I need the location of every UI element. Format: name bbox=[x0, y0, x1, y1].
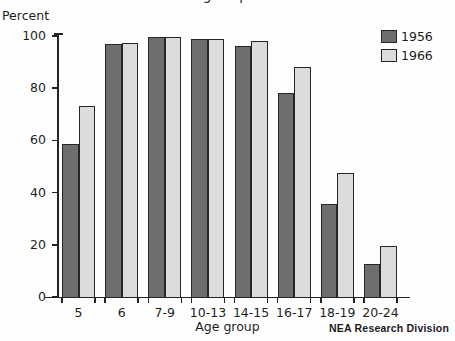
y-tick-label: 40 bbox=[0, 185, 46, 200]
x-tick bbox=[234, 297, 235, 303]
x-tick bbox=[94, 297, 95, 303]
x-tick bbox=[310, 297, 311, 303]
x-tick bbox=[363, 297, 364, 303]
y-tick-label: 60 bbox=[0, 132, 46, 147]
y-tick-label: 20 bbox=[0, 237, 46, 252]
x-tick bbox=[191, 297, 192, 303]
bar-1966-14-15 bbox=[251, 41, 268, 297]
x-tick bbox=[104, 297, 105, 303]
bar-1966-10-13 bbox=[208, 39, 225, 297]
bar-chart: Percent of Total School-Age Population E… bbox=[0, 0, 455, 341]
y-tick-label: 0 bbox=[0, 289, 46, 304]
bar-1956-16-17 bbox=[278, 93, 295, 297]
plot-area bbox=[57, 36, 402, 297]
x-tick bbox=[61, 297, 62, 303]
x-tick bbox=[181, 297, 182, 303]
bar-1956-7-9 bbox=[148, 37, 165, 297]
legend-item-1966[interactable]: 1966 bbox=[381, 46, 433, 65]
legend: 1956 1966 bbox=[381, 27, 433, 65]
bar-1966-18-19 bbox=[337, 173, 354, 297]
legend-item-1956[interactable]: 1956 bbox=[381, 27, 433, 46]
x-tick bbox=[320, 297, 321, 303]
bar-1956-18-19 bbox=[321, 204, 338, 297]
bar-1956-14-15 bbox=[235, 46, 252, 297]
x-tick bbox=[267, 297, 268, 303]
source-note: NEA Research Division bbox=[329, 322, 449, 334]
bar-1966-5 bbox=[79, 106, 96, 297]
bar-1956-5 bbox=[62, 144, 79, 297]
legend-swatch-1956-icon bbox=[381, 30, 397, 43]
y-tick-label: 80 bbox=[0, 80, 46, 95]
bar-1956-20-24 bbox=[364, 264, 381, 297]
bar-1966-7-9 bbox=[165, 37, 182, 297]
bar-1966-6 bbox=[122, 43, 139, 297]
bar-1956-10-13 bbox=[191, 39, 208, 297]
y-tick-label: 100 bbox=[0, 28, 46, 43]
x-tick bbox=[224, 297, 225, 303]
x-tick bbox=[396, 297, 397, 303]
x-tick bbox=[137, 297, 138, 303]
y-axis-title: Percent bbox=[2, 8, 49, 23]
bar-1966-20-24 bbox=[380, 246, 397, 297]
legend-label-1956: 1956 bbox=[401, 29, 433, 44]
x-tick bbox=[148, 297, 149, 303]
chart-title: Percent of Total School-Age Population E… bbox=[0, 0, 455, 3]
x-tick bbox=[277, 297, 278, 303]
legend-label-1966: 1966 bbox=[401, 48, 433, 63]
legend-swatch-1966-icon bbox=[381, 49, 397, 62]
bar-1966-16-17 bbox=[294, 67, 311, 297]
x-tick bbox=[353, 297, 354, 303]
bar-1956-6 bbox=[105, 44, 122, 297]
x-tick-label-20-24: 20-24 bbox=[350, 305, 410, 320]
